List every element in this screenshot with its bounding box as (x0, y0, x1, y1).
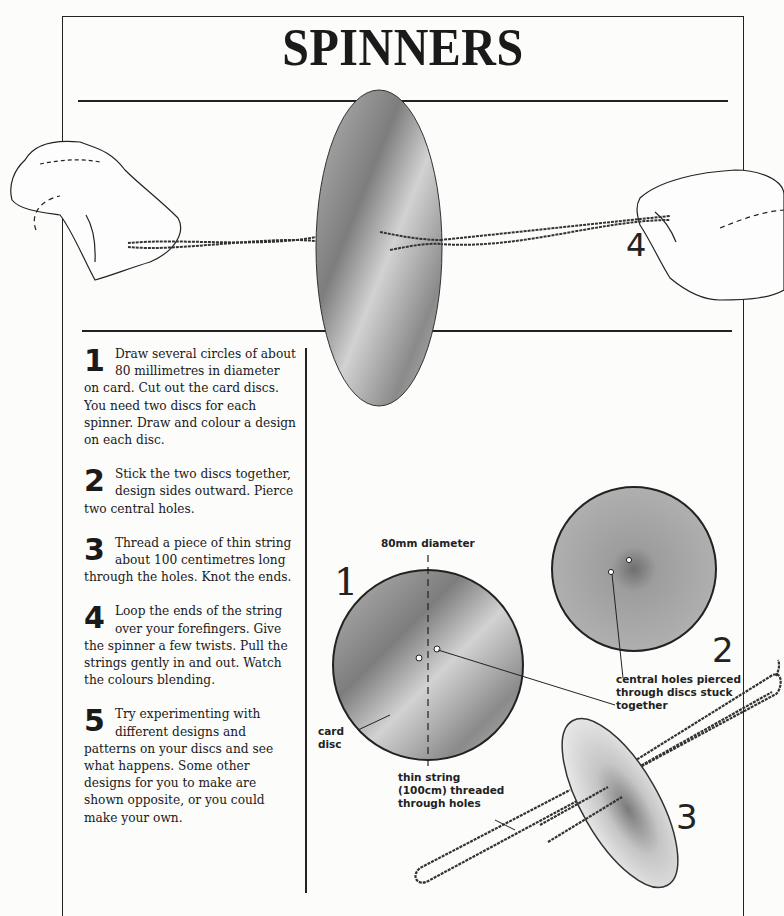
step-2: 2 Stick the two discs together, design s… (84, 466, 296, 518)
step-5: 5 Try experimenting with different desig… (84, 706, 296, 826)
disc-2-number: 2 (712, 630, 734, 670)
diameter-label: 80mm diameter (381, 537, 475, 550)
step-number: 1 (84, 348, 105, 374)
disc-3-number: 3 (676, 797, 698, 837)
step-text: Try experimenting with different designs… (84, 707, 273, 824)
step-number: 3 (84, 537, 105, 563)
step-text: Draw several circles of about 80 millime… (84, 347, 296, 447)
spinner-disc-hero (316, 90, 442, 406)
step-1: 1 Draw several circles of about 80 milli… (84, 346, 296, 449)
left-hand-illustration (11, 141, 181, 280)
step-number: 4 (84, 605, 105, 631)
step-text: Thread a piece of thin string about 100 … (84, 536, 291, 584)
thin-string-label: thin string (100cm) threaded through hol… (398, 771, 504, 810)
card-disc-label: card disc (318, 725, 344, 751)
hero-step-number: 4 (626, 226, 646, 264)
step-4: 4 Loop the ends of the string over your … (84, 603, 296, 689)
step-number: 2 (84, 468, 105, 494)
step-text: Stick the two discs together, design sid… (84, 467, 293, 515)
step-number: 5 (84, 708, 105, 734)
disc-2-illustration (552, 487, 716, 651)
step-text: Loop the ends of the string over your fo… (84, 604, 288, 687)
step-3: 3 Thread a piece of thin string about 10… (84, 535, 296, 587)
right-hand-illustration (637, 170, 784, 300)
instructions-column: 1 Draw several circles of about 80 milli… (84, 346, 296, 844)
central-holes-label: central holes pierced through discs stuc… (616, 673, 741, 712)
disc-1-number: 1 (334, 560, 358, 604)
